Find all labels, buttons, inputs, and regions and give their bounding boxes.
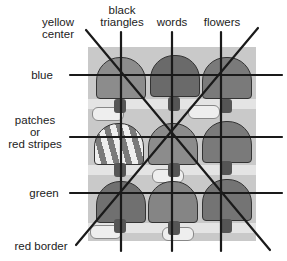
line-yellow-center [86, 30, 270, 250]
pointer-lines [0, 0, 287, 261]
